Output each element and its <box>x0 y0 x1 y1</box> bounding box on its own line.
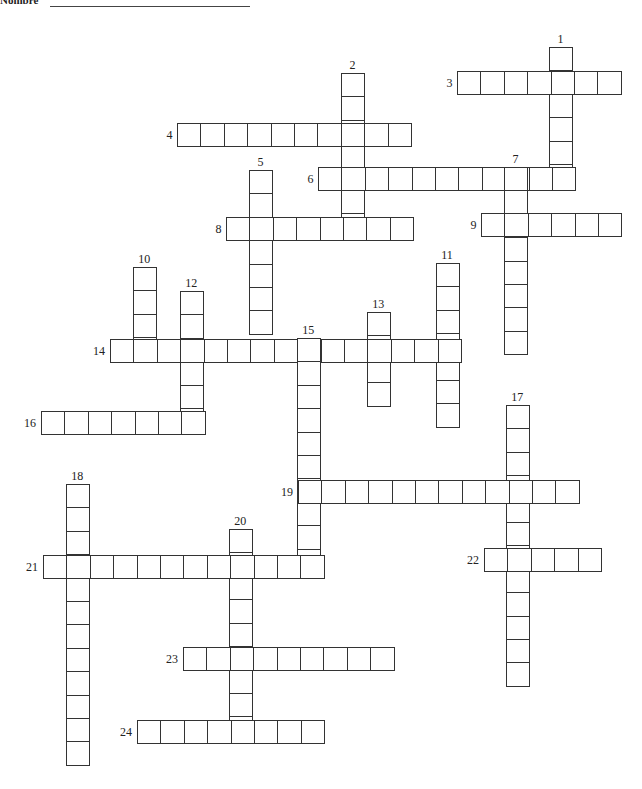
crossword-cell[interactable] <box>249 287 273 311</box>
crossword-cell[interactable] <box>229 623 253 647</box>
crossword-cell[interactable] <box>506 662 530 686</box>
crossword-cell[interactable] <box>229 576 253 600</box>
crossword-cell[interactable] <box>366 217 390 241</box>
crossword-cell[interactable] <box>462 480 486 504</box>
crossword-cell[interactable] <box>298 480 322 504</box>
crossword-cell[interactable] <box>64 411 88 435</box>
crossword-cell[interactable] <box>111 411 135 435</box>
crossword-cell[interactable] <box>549 47 573 71</box>
crossword-cell[interactable] <box>341 73 365 97</box>
crossword-cell[interactable] <box>506 428 530 452</box>
crossword-cell[interactable] <box>230 555 254 579</box>
crossword-cell[interactable] <box>224 123 248 147</box>
crossword-cell[interactable] <box>301 720 325 744</box>
crossword-cell[interactable] <box>438 480 462 504</box>
crossword-cell[interactable] <box>392 480 416 504</box>
crossword-cell[interactable] <box>507 548 531 572</box>
crossword-cell[interactable] <box>247 123 271 147</box>
crossword-cell[interactable] <box>273 217 297 241</box>
crossword-cell[interactable] <box>254 555 278 579</box>
crossword-cell[interactable] <box>180 314 204 338</box>
crossword-cell[interactable] <box>229 669 253 693</box>
crossword-cell[interactable] <box>296 217 320 241</box>
crossword-cell[interactable] <box>345 480 369 504</box>
crossword-cell[interactable] <box>297 408 321 432</box>
crossword-cell[interactable] <box>180 291 204 315</box>
crossword-cell[interactable] <box>181 411 205 435</box>
crossword-cell[interactable] <box>367 382 391 406</box>
crossword-cell[interactable] <box>436 403 460 427</box>
crossword-cell[interactable] <box>41 411 65 435</box>
crossword-cell[interactable] <box>480 71 504 95</box>
crossword-cell[interactable] <box>249 240 273 264</box>
crossword-cell[interactable] <box>229 529 253 553</box>
crossword-cell[interactable] <box>504 307 528 331</box>
crossword-cell[interactable] <box>555 480 579 504</box>
crossword-cell[interactable] <box>504 167 528 191</box>
crossword-cell[interactable] <box>297 361 321 385</box>
crossword-cell[interactable] <box>504 261 528 285</box>
crossword-cell[interactable] <box>133 290 157 314</box>
crossword-cell[interactable] <box>137 720 161 744</box>
crossword-cell[interactable] <box>297 525 321 549</box>
crossword-cell[interactable] <box>271 123 295 147</box>
crossword-cell[interactable] <box>506 616 530 640</box>
crossword-cell[interactable] <box>527 71 551 95</box>
crossword-cell[interactable] <box>297 455 321 479</box>
crossword-cell[interactable] <box>388 167 412 191</box>
crossword-cell[interactable] <box>66 741 90 765</box>
crossword-cell[interactable] <box>482 167 506 191</box>
crossword-cell[interactable] <box>575 213 599 237</box>
crossword-cell[interactable] <box>231 720 255 744</box>
crossword-cell[interactable] <box>226 217 250 241</box>
crossword-cell[interactable] <box>436 286 460 310</box>
crossword-cell[interactable] <box>229 693 253 717</box>
crossword-cell[interactable] <box>249 193 273 217</box>
crossword-cell[interactable] <box>367 312 391 336</box>
crossword-cell[interactable] <box>436 263 460 287</box>
crossword-cell[interactable] <box>532 480 556 504</box>
crossword-cell[interactable] <box>414 339 438 363</box>
crossword-cell[interactable] <box>66 718 90 742</box>
crossword-cell[interactable] <box>230 647 254 671</box>
crossword-cell[interactable] <box>137 555 161 579</box>
crossword-cell[interactable] <box>574 71 598 95</box>
crossword-cell[interactable] <box>206 647 230 671</box>
crossword-cell[interactable] <box>388 123 412 147</box>
crossword-cell[interactable] <box>341 167 365 191</box>
crossword-cell[interactable] <box>368 480 392 504</box>
crossword-cell[interactable] <box>506 569 530 593</box>
crossword-cell[interactable] <box>321 339 345 363</box>
crossword-cell[interactable] <box>207 555 231 579</box>
crossword-cell[interactable] <box>504 190 528 214</box>
crossword-cell[interactable] <box>504 284 528 308</box>
crossword-cell[interactable] <box>367 339 391 363</box>
crossword-cell[interactable] <box>90 555 114 579</box>
crossword-cell[interactable] <box>66 648 90 672</box>
crossword-cell[interactable] <box>506 592 530 616</box>
crossword-cell[interactable] <box>504 237 528 261</box>
crossword-cell[interactable] <box>390 217 414 241</box>
crossword-cell[interactable] <box>66 624 90 648</box>
crossword-cell[interactable] <box>297 432 321 456</box>
crossword-cell[interactable] <box>249 217 273 241</box>
crossword-cell[interactable] <box>391 339 415 363</box>
crossword-cell[interactable] <box>110 339 134 363</box>
crossword-cell[interactable] <box>66 484 90 508</box>
crossword-cell[interactable] <box>254 720 278 744</box>
crossword-cell[interactable] <box>133 314 157 338</box>
crossword-cell[interactable] <box>66 531 90 555</box>
crossword-cell[interactable] <box>321 480 345 504</box>
crossword-cell[interactable] <box>227 339 251 363</box>
crossword-cell[interactable] <box>509 480 533 504</box>
crossword-cell[interactable] <box>504 213 528 237</box>
crossword-cell[interactable] <box>370 647 394 671</box>
crossword-cell[interactable] <box>66 555 90 579</box>
crossword-cell[interactable] <box>229 599 253 623</box>
crossword-cell[interactable] <box>249 310 273 334</box>
crossword-cell[interactable] <box>277 647 301 671</box>
crossword-cell[interactable] <box>183 555 207 579</box>
crossword-cell[interactable] <box>43 555 67 579</box>
crossword-cell[interactable] <box>274 339 298 363</box>
crossword-cell[interactable] <box>549 117 573 141</box>
